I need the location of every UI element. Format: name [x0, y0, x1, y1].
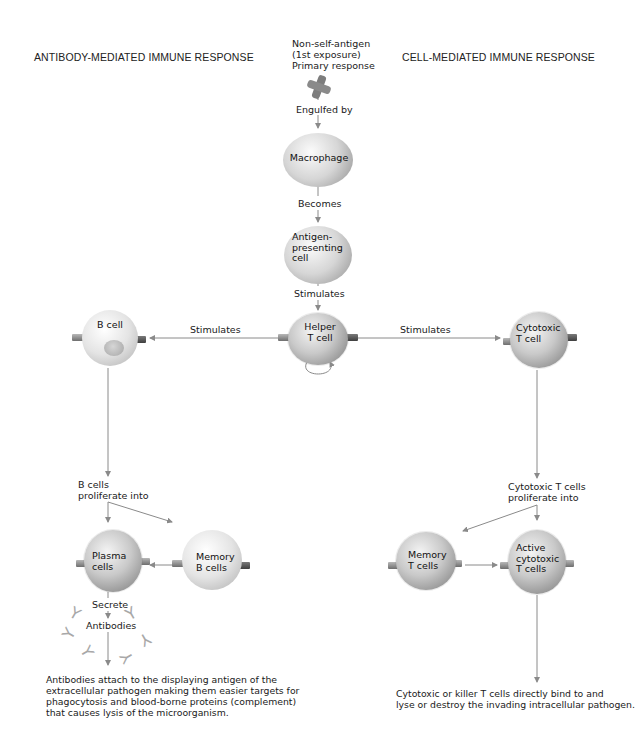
- memory-b-line-1: Memory: [196, 552, 240, 563]
- helper-t-cell-label: Helper T cell: [300, 322, 340, 343]
- tc-proliferate-line-1: Cytotoxic T cells: [508, 481, 586, 492]
- b-cell-label: B cell: [90, 320, 130, 331]
- header-antibody-mediated: ANTIBODY-MEDIATED IMMUNE RESPONSE: [34, 51, 254, 63]
- apc-line-3: cell: [292, 253, 352, 264]
- memory-t-cells-label: Memory T cells: [408, 550, 454, 571]
- engulfed-by-label: Engulfed by: [296, 104, 353, 115]
- helper-line-1: Helper: [300, 322, 340, 333]
- macrophage-label: Macrophage: [283, 153, 355, 164]
- cytotoxic-t-cell-label: Cytotoxic T cell: [516, 323, 566, 344]
- footer-left-line-2: extracellular pathogen making them easie…: [46, 685, 299, 696]
- active-line-1: Active: [516, 543, 564, 554]
- becomes-label: Becomes: [298, 198, 341, 209]
- tc-proliferate-label: Cytotoxic T cells proliferate into: [508, 481, 586, 503]
- antigen-line-1: Non-self-antigen: [292, 38, 375, 49]
- footer-left-line-4: that causes lysis of the microorganism.: [46, 707, 299, 718]
- b-cell-nucleus: [104, 340, 124, 356]
- footer-antibody-text: Antibodies attach to the displaying anti…: [46, 674, 299, 718]
- antigen-cross-icon: [306, 74, 332, 100]
- b-proliferate-line-2: proliferate into: [78, 490, 149, 501]
- apc-line-1: Antigen-: [292, 232, 352, 243]
- stimulates-left-label: Stimulates: [190, 324, 241, 335]
- antigen-line-3: Primary response: [292, 60, 375, 71]
- footer-right-line-2: lyse or destroy the invading intracellul…: [396, 699, 635, 710]
- footer-left-line-3: phagocytosis and blood-borne proteins (c…: [46, 696, 299, 707]
- stimulates-down-label: Stimulates: [294, 288, 345, 299]
- stimulates-right-label: Stimulates: [400, 324, 451, 335]
- b-proliferate-line-1: B cells: [78, 479, 149, 490]
- plasma-line-2: cells: [92, 562, 136, 573]
- memory-b-cells-label: Memory B cells: [196, 552, 240, 573]
- cytotoxic-line-2: T cell: [516, 334, 566, 345]
- header-cell-mediated: CELL-MEDIATED IMMUNE RESPONSE: [402, 51, 595, 63]
- footer-left-line-1: Antibodies attach to the displaying anti…: [46, 674, 299, 685]
- cytotoxic-line-1: Cytotoxic: [516, 323, 566, 334]
- footer-cell-mediated-text: Cytotoxic or killer T cells directly bin…: [396, 688, 635, 710]
- antibodies-label: Antibodies: [86, 620, 136, 631]
- memory-b-line-2: B cells: [196, 563, 240, 574]
- antigen-label: Non-self-antigen (1st exposure) Primary …: [292, 38, 375, 71]
- active-cytotoxic-label: Active cytotoxic T cells: [516, 543, 564, 575]
- b-cells-proliferate-label: B cells proliferate into: [78, 479, 149, 501]
- footer-right-line-1: Cytotoxic or killer T cells directly bin…: [396, 688, 635, 699]
- apc-label: Antigen- presenting cell: [292, 232, 352, 264]
- plasma-cells-label: Plasma cells: [92, 551, 136, 572]
- memory-t-line-2: T cells: [408, 561, 454, 572]
- helper-line-2: T cell: [300, 333, 340, 344]
- antigen-line-2: (1st exposure): [292, 49, 375, 60]
- memory-t-line-1: Memory: [408, 550, 454, 561]
- plasma-line-1: Plasma: [92, 551, 136, 562]
- active-line-3: T cells: [516, 564, 564, 575]
- tc-proliferate-line-2: proliferate into: [508, 492, 586, 503]
